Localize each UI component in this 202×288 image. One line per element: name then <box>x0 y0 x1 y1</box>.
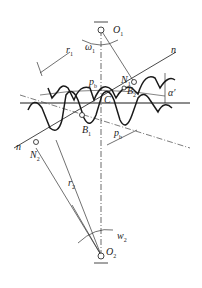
label-b2: B2 <box>127 86 136 98</box>
label-n-top: n <box>171 45 176 55</box>
label-pb: pb <box>89 77 97 89</box>
label-alpha: α′ <box>168 88 175 98</box>
label-o1: O1 <box>113 25 123 37</box>
radius-o2-b <box>56 140 101 255</box>
label-r2-prime: r2 <box>68 178 75 190</box>
label-r1-prime: r1 <box>66 45 73 57</box>
label-c: C <box>104 95 111 105</box>
label-n2: N2 <box>30 150 40 162</box>
label-w2: w2 <box>117 231 127 243</box>
label-o2: O2 <box>106 247 116 259</box>
gear-mesh-diagram: O1 ω1 r1 n N1 B2 α′ pb C B1 pb n N2 r2 w… <box>0 0 202 288</box>
label-omega1: ω1 <box>85 42 95 54</box>
radius-o2-n2 <box>36 148 101 255</box>
label-b1: B1 <box>82 125 91 137</box>
label-pb-lower: pb <box>114 128 122 140</box>
label-n-bottom: n <box>16 142 21 152</box>
